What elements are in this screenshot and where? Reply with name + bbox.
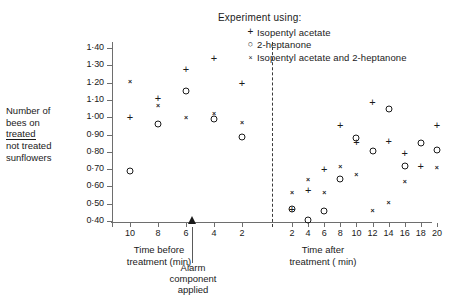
data-point: + <box>385 135 391 146</box>
x-axis-tick-label: 14 <box>384 228 394 238</box>
x-axis-tick: 10 <box>130 223 131 227</box>
x-axis-tick-label: 20 <box>432 228 442 238</box>
scatter-chart-figure: Experiment using: + Isopentyl acetate ○ … <box>0 0 457 306</box>
data-point <box>155 121 162 128</box>
y-axis-tick: 1·40 <box>107 48 112 49</box>
x-axis-tick: 6 <box>186 223 187 227</box>
data-point <box>239 134 246 141</box>
data-point: × <box>387 198 391 205</box>
data-point: + <box>211 53 217 64</box>
y-axis-tick: 1·30 <box>107 65 112 66</box>
x-axis-tick-label: 6 <box>322 228 327 238</box>
alarm-arrow-icon <box>188 216 196 224</box>
data-point: + <box>418 160 424 171</box>
data-point: + <box>183 63 189 74</box>
y-axis-tick: 0·50 <box>107 204 112 205</box>
data-point: × <box>306 176 310 183</box>
x-axis-tick: 2 <box>242 223 243 227</box>
x-axis-tick: 8 <box>340 223 341 227</box>
legend-item-isopentyl-acetate: + Isopentyl acetate <box>196 26 446 39</box>
x-axis-tick-label: 4 <box>306 228 311 238</box>
data-point: × <box>156 102 160 109</box>
data-point: + <box>321 164 327 175</box>
data-point: × <box>240 119 244 126</box>
data-point <box>369 147 376 154</box>
y-axis-title-denominator-2: sunflowers <box>6 152 82 164</box>
data-point: + <box>337 119 343 130</box>
data-point: × <box>338 162 342 169</box>
y-axis-tick-label: 1·30 <box>86 59 104 69</box>
data-point: + <box>369 96 375 107</box>
x-axis-tick-label: 18 <box>416 228 426 238</box>
y-axis-tick: 0·60 <box>107 186 112 187</box>
x-axis-tick: 12 <box>373 223 374 227</box>
x-axis-tick-label: 4 <box>211 228 216 238</box>
y-axis-title-line-2: bees on <box>6 117 82 129</box>
data-point <box>305 217 312 224</box>
x-axis-tick: 10 <box>356 223 357 227</box>
data-point: × <box>322 188 326 195</box>
data-point: × <box>290 188 294 195</box>
data-point: × <box>128 77 132 84</box>
y-axis-title-denominator-1: not treated <box>6 140 82 152</box>
data-point <box>401 162 408 169</box>
data-point <box>289 205 296 212</box>
data-point <box>433 147 440 154</box>
x-axis-title-before-line-1: Time before <box>104 244 214 256</box>
x-axis-tick-label: 10 <box>351 228 361 238</box>
x-axis-title-after: Time after treatment ( min) <box>268 244 378 268</box>
data-point: + <box>239 77 245 88</box>
data-point: + <box>305 184 311 195</box>
data-point <box>211 115 218 122</box>
y-axis-tick-label: 0·50 <box>86 198 104 208</box>
y-axis-title-line-1: Number of <box>6 105 82 117</box>
plus-marker-icon: + <box>244 27 257 37</box>
x-axis-tick-label: 10 <box>125 228 135 238</box>
y-axis-line <box>112 42 113 227</box>
data-point: × <box>435 164 439 171</box>
data-point <box>183 88 190 95</box>
y-axis-tick: 0·70 <box>107 169 112 170</box>
x-axis-tick-label: 8 <box>155 228 160 238</box>
x-axis-title-after-line-2: treatment ( min) <box>268 256 378 268</box>
data-point: × <box>354 171 358 178</box>
alarm-annotation-line-2: component <box>150 273 236 284</box>
y-axis-tick-label: 0·40 <box>86 215 104 225</box>
y-axis-title-numerator: treated <box>6 128 36 140</box>
data-point: + <box>401 147 407 158</box>
y-axis-tick-label: 1·10 <box>86 94 104 104</box>
data-point <box>127 167 134 174</box>
data-point <box>321 208 328 215</box>
data-point: + <box>434 119 440 130</box>
x-axis-tick-label: 2 <box>239 228 244 238</box>
x-axis-tick-label: 8 <box>338 228 343 238</box>
x-axis-title-after-line-1: Time after <box>268 244 378 256</box>
data-point <box>417 140 424 147</box>
x-axis-tick: 4 <box>214 223 215 227</box>
x-axis-tick: 18 <box>421 223 422 227</box>
data-point: × <box>370 206 374 213</box>
x-axis-title-before: Time before treatment (min) <box>104 244 214 268</box>
data-point <box>385 105 392 112</box>
y-axis-tick-label: 1·00 <box>86 111 104 121</box>
x-axis-tick: 2 <box>292 223 293 227</box>
x-axis-tick: 16 <box>405 223 406 227</box>
data-point: × <box>212 109 216 116</box>
y-axis-tick-label: 1·20 <box>86 77 104 87</box>
x-axis-tick: 14 <box>389 223 390 227</box>
x-axis-title-before-line-2: treatment (min) <box>104 256 214 268</box>
data-point <box>337 175 344 182</box>
y-axis-tick-label: 0·90 <box>86 129 104 139</box>
x-axis-tick-label: 16 <box>400 228 410 238</box>
y-axis-tick: 1·00 <box>107 117 112 118</box>
y-axis-tick: 1·20 <box>107 83 112 84</box>
plot-area: 1·401·301·201·101·000·900·800·700·600·50… <box>112 46 432 223</box>
data-point: × <box>184 114 188 121</box>
data-point: × <box>403 178 407 185</box>
y-axis-tick: 0·80 <box>107 152 112 153</box>
y-axis-tick-label: 1·40 <box>86 42 104 52</box>
x-axis-tick: 20 <box>437 223 438 227</box>
legend-title: Experiment using: <box>196 12 446 23</box>
y-axis-tick: 0·40 <box>107 221 112 222</box>
x-axis-tick-label: 6 <box>183 228 188 238</box>
